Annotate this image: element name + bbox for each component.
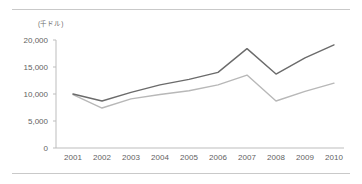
data-line-series-upper	[73, 45, 334, 101]
axis-lines	[56, 40, 344, 148]
plot-area	[0, 0, 362, 184]
line-chart-svg	[0, 0, 362, 184]
data-line-series-lower	[73, 75, 334, 108]
chart-screenshot: (千ドル) 20,000 15,000 10,000 5,000 0 2001 …	[0, 0, 362, 184]
